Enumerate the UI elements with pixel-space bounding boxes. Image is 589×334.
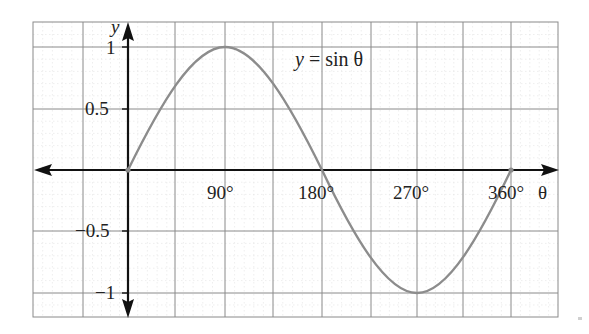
x-axis-label: θ <box>538 182 547 203</box>
origin-point <box>125 167 130 172</box>
y-tick-0.5: 0.5 <box>85 98 109 119</box>
x-tick-270: 270° <box>393 182 429 203</box>
y-tick-minus-1: −1 <box>95 282 115 303</box>
sine-chart: y 1 0.5 −0.5 −1 90° 180° 270° 360° θ y =… <box>0 0 589 334</box>
corner-mark <box>578 317 582 320</box>
y-tick-1: 1 <box>106 37 116 58</box>
x-tick-180: 180° <box>298 182 334 203</box>
y-axis-label: y <box>109 16 120 37</box>
end-point <box>508 167 513 172</box>
x-tick-360: 360° <box>488 182 524 203</box>
x-tick-90: 90° <box>207 182 234 203</box>
equation-label: y = sin θ <box>293 48 363 71</box>
y-tick-minus-0.5: −0.5 <box>75 220 109 241</box>
